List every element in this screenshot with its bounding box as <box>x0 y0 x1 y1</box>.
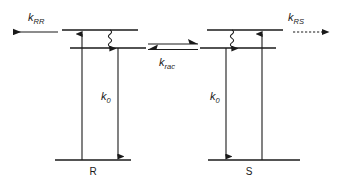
right-energy-diagram-S: k0 S <box>200 30 300 177</box>
racemization-equilibrium-group: krac <box>148 44 198 71</box>
left-energy-diagram-R: k0 R <box>55 30 146 177</box>
k-rs-rate-group: kRS <box>288 11 329 32</box>
k-rr-label: kRR <box>28 11 45 26</box>
k-rr-rate-group: kRR <box>14 11 58 32</box>
left-k0-label: k0 <box>101 90 112 105</box>
left-internal-conversion-squiggle <box>108 30 111 47</box>
energy-level-diagram-figure: k0 R k0 S kRR <box>0 0 338 181</box>
left-state-label-R: R <box>89 166 96 177</box>
right-state-label-S: S <box>246 166 253 177</box>
diagram-canvas: k0 R k0 S kRR <box>0 0 338 181</box>
k-rs-label: kRS <box>288 11 304 26</box>
right-k0-label: k0 <box>210 90 221 105</box>
k-rac-label: krac <box>159 56 175 71</box>
right-internal-conversion-squiggle <box>230 30 233 47</box>
